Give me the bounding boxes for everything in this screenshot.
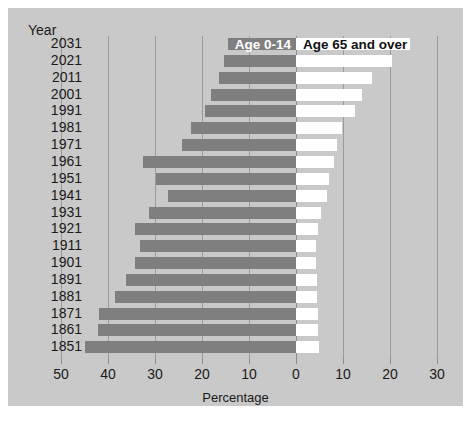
y-axis-tick-label: 1991 bbox=[24, 102, 82, 118]
x-axis-tick bbox=[437, 358, 438, 364]
y-axis-tick-label: 2011 bbox=[24, 69, 82, 85]
gridline bbox=[390, 36, 391, 358]
bar-age-65-and-over bbox=[296, 223, 318, 235]
y-axis-tick-label: 1861 bbox=[24, 321, 82, 337]
x-axis-tick-label: 30 bbox=[135, 366, 175, 382]
bar-age-65-and-over bbox=[296, 122, 342, 134]
bar-age-65-and-over bbox=[296, 207, 321, 219]
bar-age-65-and-over bbox=[296, 156, 334, 168]
x-axis-tick-label: 20 bbox=[182, 366, 222, 382]
population-pyramid-figure: Year 50403020100102030 20312021201120011… bbox=[0, 0, 471, 422]
y-axis-tick-label: 1951 bbox=[24, 170, 82, 186]
x-axis-tick bbox=[343, 358, 344, 364]
bar-age-65-and-over bbox=[296, 308, 318, 320]
y-axis-tick-label: 1891 bbox=[24, 271, 82, 287]
bar-age-65-and-over bbox=[296, 72, 372, 84]
bar-age-0-14 bbox=[135, 223, 296, 235]
plot-area: Year 50403020100102030 20312021201120011… bbox=[0, 0, 471, 422]
x-axis-title: Percentage bbox=[0, 390, 471, 405]
bar-age-0-14 bbox=[140, 240, 296, 252]
x-axis-tick-label: 0 bbox=[276, 366, 316, 382]
gridline bbox=[343, 36, 344, 358]
bar-age-65-and-over bbox=[296, 291, 317, 303]
bar-age-0-14 bbox=[126, 274, 296, 286]
gridline bbox=[437, 36, 438, 358]
x-axis-tick-label: 50 bbox=[41, 366, 81, 382]
x-axis-tick-label: 20 bbox=[370, 366, 410, 382]
y-axis-tick-label: 1961 bbox=[24, 153, 82, 169]
bar-age-0-14 bbox=[149, 207, 296, 219]
bar-age-0-14 bbox=[156, 173, 296, 185]
x-axis-tick bbox=[390, 358, 391, 364]
bar-age-0-14 bbox=[135, 257, 296, 269]
legend-item-age-0-14: Age 0-14 bbox=[228, 38, 296, 50]
y-axis-tick-label: 1971 bbox=[24, 136, 82, 152]
x-axis-tick bbox=[202, 358, 203, 364]
y-axis-tick-label: 1941 bbox=[24, 187, 82, 203]
bar-age-0-14 bbox=[168, 190, 296, 202]
y-axis-tick-label: 2001 bbox=[24, 86, 82, 102]
bar-age-65-and-over bbox=[296, 257, 316, 269]
bar-age-0-14 bbox=[219, 72, 296, 84]
bar-age-0-14 bbox=[211, 89, 296, 101]
bar-age-0-14 bbox=[98, 324, 296, 336]
x-axis-tick bbox=[155, 358, 156, 364]
bar-age-0-14 bbox=[182, 139, 296, 151]
legend-label-age-0-14: Age 0-14 bbox=[235, 37, 291, 52]
bar-age-65-and-over bbox=[296, 324, 318, 336]
bar-age-65-and-over bbox=[296, 190, 327, 202]
x-axis-tick bbox=[108, 358, 109, 364]
bar-age-65-and-over bbox=[296, 240, 316, 252]
bar-age-65-and-over bbox=[296, 139, 337, 151]
y-axis-tick-label: 2021 bbox=[24, 52, 82, 68]
y-axis-tick-label: 1901 bbox=[24, 254, 82, 270]
x-axis-tick bbox=[296, 358, 297, 364]
y-axis-tick-label: 1881 bbox=[24, 288, 82, 304]
x-axis-tick-label: 10 bbox=[323, 366, 363, 382]
bar-age-65-and-over bbox=[296, 173, 329, 185]
y-axis-tick-label: 1851 bbox=[24, 338, 82, 354]
y-axis-tick-label: 1911 bbox=[24, 237, 82, 253]
y-axis-tick-label: 2031 bbox=[24, 35, 82, 51]
bar-age-65-and-over bbox=[296, 105, 355, 117]
legend-label-age-65-and-over: Age 65 and over bbox=[303, 37, 407, 52]
bar-age-0-14 bbox=[205, 105, 296, 117]
bar-age-0-14 bbox=[143, 156, 296, 168]
x-axis-tick-label: 40 bbox=[88, 366, 128, 382]
y-axis-tick-label: 1981 bbox=[24, 119, 82, 135]
bar-age-65-and-over bbox=[296, 341, 319, 353]
x-axis-tick-label: 10 bbox=[229, 366, 269, 382]
bar-age-0-14 bbox=[99, 308, 296, 320]
x-axis-tick bbox=[249, 358, 250, 364]
x-axis-tick-label: 30 bbox=[417, 366, 457, 382]
y-axis-tick-label: 1921 bbox=[24, 220, 82, 236]
bar-age-65-and-over bbox=[296, 89, 362, 101]
bar-age-0-14 bbox=[191, 122, 296, 134]
y-axis-tick-label: 1871 bbox=[24, 305, 82, 321]
legend-item-age-65-and-over: Age 65 and over bbox=[296, 38, 410, 50]
y-axis-tick-label: 1931 bbox=[24, 204, 82, 220]
x-axis-tick bbox=[61, 358, 62, 364]
bar-age-0-14 bbox=[115, 291, 296, 303]
bar-age-65-and-over bbox=[296, 274, 317, 286]
bar-age-0-14 bbox=[224, 55, 296, 67]
bar-age-65-and-over bbox=[296, 55, 392, 67]
bar-age-0-14 bbox=[85, 341, 296, 353]
